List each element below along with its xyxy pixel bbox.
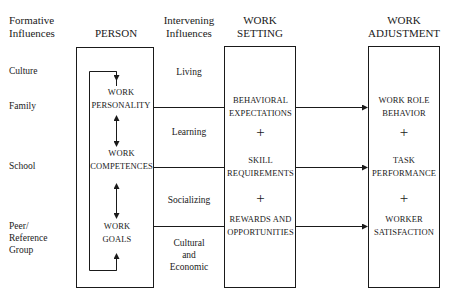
intervening-text: and xyxy=(154,249,224,261)
work-adjustment-text: BEHAVIOR xyxy=(368,107,440,120)
work-setting-text: REQUIREMENTS xyxy=(225,167,296,180)
person-text: PERSONALITY xyxy=(90,99,152,112)
diagram-lines xyxy=(0,0,449,295)
header-text: Influences xyxy=(155,27,223,40)
intervening-item-socializing: Socializing xyxy=(154,194,224,206)
person-item-work-goals: WORK GOALS xyxy=(92,220,142,246)
formative-item-family: Family xyxy=(9,100,36,112)
plus-symbol: + xyxy=(225,191,296,206)
header-intervening-influences: Intervening Influences xyxy=(155,14,223,40)
header-formative-influences: Formative Influences xyxy=(9,14,79,40)
header-text: Influences xyxy=(9,27,79,40)
formative-item-culture: Culture xyxy=(9,65,38,77)
work-setting-item-behavioral-expectations: BEHAVIORAL EXPECTATIONS xyxy=(225,94,296,120)
header-work-adjustment: WORK ADJUSTMENT xyxy=(360,14,448,40)
header-text: ADJUSTMENT xyxy=(360,27,448,40)
work-adjustment-text: WORKER xyxy=(368,213,440,226)
header-text: Formative xyxy=(9,14,79,27)
person-text: WORK xyxy=(92,220,142,233)
intervening-item-living: Living xyxy=(154,66,224,78)
work-setting-text: EXPECTATIONS xyxy=(225,107,296,120)
work-adjustment-item-worker-satisfaction: WORKER SATISFACTION xyxy=(368,213,440,239)
intervening-text: Economic xyxy=(154,261,224,273)
work-adjustment-item-work-role-behavior: WORK ROLE BEHAVIOR xyxy=(368,94,440,120)
person-item-work-personality: WORK PERSONALITY xyxy=(90,86,152,112)
person-text: WORK xyxy=(90,86,152,99)
work-adjustment-text: TASK xyxy=(368,154,440,167)
formative-item-peer-reference-group: Peer/ Reference Group xyxy=(9,220,48,256)
person-item-work-competences: WORK COMPETENCES xyxy=(90,147,153,173)
work-adjustment-text: PERFORMANCE xyxy=(368,167,440,180)
work-adjustment-item-task-performance: TASK PERFORMANCE xyxy=(368,154,440,180)
work-setting-text: SKILL xyxy=(225,154,296,167)
formative-text: Group xyxy=(9,244,48,256)
formative-text: Reference xyxy=(9,232,48,244)
work-setting-text: REWARDS AND xyxy=(225,213,296,226)
intervening-text: Cultural xyxy=(154,237,224,249)
work-adjustment-text: WORK ROLE xyxy=(368,94,440,107)
formative-item-school: School xyxy=(9,160,35,172)
work-setting-text: BEHAVIORAL xyxy=(225,94,296,107)
header-text: WORK xyxy=(222,14,298,27)
plus-symbol: + xyxy=(368,125,440,140)
formative-text: Peer/ xyxy=(9,220,48,232)
intervening-item-learning: Learning xyxy=(154,126,224,138)
header-person: PERSON xyxy=(84,27,148,40)
work-adjustment-text: SATISFACTION xyxy=(368,226,440,239)
person-text: GOALS xyxy=(92,233,142,246)
header-text: SETTING xyxy=(222,27,298,40)
intervening-item-cultural-economic: Cultural and Economic xyxy=(154,237,224,273)
work-setting-item-skill-requirements: SKILL REQUIREMENTS xyxy=(225,154,296,180)
header-work-setting: WORK SETTING xyxy=(222,14,298,40)
work-setting-item-rewards-opportunities: REWARDS AND OPPORTUNITIES xyxy=(225,213,296,239)
person-text: WORK xyxy=(90,147,153,160)
work-setting-text: OPPORTUNITIES xyxy=(225,226,296,239)
header-text: WORK xyxy=(360,14,448,27)
person-text: COMPETENCES xyxy=(90,160,153,173)
plus-symbol: + xyxy=(225,125,296,140)
header-text: Intervening xyxy=(155,14,223,27)
plus-symbol: + xyxy=(368,191,440,206)
